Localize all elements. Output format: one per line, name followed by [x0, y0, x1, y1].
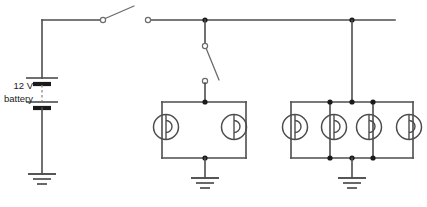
junction-dot-lamp-left-top [202, 99, 207, 104]
switch-top-right-terminal-icon[interactable] [145, 17, 150, 22]
junction-dot-lamp-right-top-2 [349, 99, 354, 104]
junction-dot-lamp-right-top-3 [370, 99, 375, 104]
junction-dot-lamp-right-bottom-3 [370, 155, 375, 160]
lamp-icon-right-4 [397, 115, 422, 140]
battery-label-voltage: 12 V [13, 80, 33, 91]
switch-top-left-terminal-icon[interactable] [100, 17, 105, 22]
lamp-icon-right-1 [283, 115, 308, 140]
lamp-icon-left-2 [222, 115, 247, 140]
battery-label-name: battery [4, 93, 33, 104]
lamp-icon-right-3 [357, 115, 382, 140]
lamp-group-left [154, 99, 247, 178]
switch-top-horizontal[interactable] [100, 6, 150, 23]
lamp-icon-right-2 [322, 115, 347, 140]
lamp-group-right [283, 99, 422, 178]
switch-branch-vertical[interactable] [202, 20, 219, 102]
lamp-icon-left-1 [154, 115, 179, 140]
ground-lamp-group-right [338, 178, 366, 188]
ground-battery [28, 174, 56, 184]
junction-dot-lamp-right-bottom-1 [327, 155, 332, 160]
switch-top-lever[interactable] [104, 6, 134, 19]
ground-lamp-group-left [191, 178, 219, 188]
circuit-diagram: 12 V battery [0, 0, 427, 207]
junction-dot-lamp-right-top-1 [327, 99, 332, 104]
switch-branch-lever[interactable] [206, 48, 219, 80]
switch-branch-upper-terminal-icon[interactable] [202, 43, 207, 48]
battery-12v: 12 V battery [4, 78, 58, 174]
circuit-schematic-canvas: 12 V battery [0, 0, 427, 207]
top-supply-rail [42, 20, 395, 78]
